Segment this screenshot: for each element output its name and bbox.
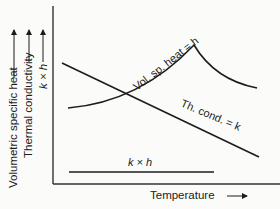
vol-sp-heat-curve [68,45,257,108]
k-times-h-label: k × h [128,156,152,168]
vol-sp-heat-label: Vol. sp. heat = h [131,34,201,92]
y-label-vol-sp-heat: Volumetric specific heat [7,66,19,188]
x-axis-label: Temperature [150,189,215,201]
y-label-k-times-h: k × h [37,64,49,89]
diagram-canvas: Volumetric specific heat Thermal conduct… [0,0,280,209]
th-cond-line [62,63,259,157]
th-cond-label: Th. cond. = k [179,97,243,133]
y-label-thermal-conductivity: Thermal conductivity [22,52,34,158]
